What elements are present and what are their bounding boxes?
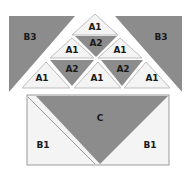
label-r2-a1-left: A1 bbox=[65, 45, 78, 55]
label-left-b3: B3 bbox=[23, 32, 36, 42]
label-left-b1: B1 bbox=[36, 140, 49, 150]
bottom-block: C B1 B1 bbox=[27, 95, 169, 165]
label-r3-a1-1: A1 bbox=[35, 73, 48, 83]
label-r3-a2-1: A2 bbox=[65, 64, 78, 74]
label-r3-a1-3: A1 bbox=[145, 73, 158, 83]
label-r2-a1-right: A1 bbox=[113, 45, 126, 55]
label-r3-a1-2: A1 bbox=[90, 73, 103, 83]
label-c: C bbox=[97, 113, 104, 123]
label-r3-a2-2: A2 bbox=[116, 64, 129, 74]
label-right-b3: B3 bbox=[154, 32, 167, 42]
label-r1-a1: A1 bbox=[88, 22, 101, 32]
label-r2-a2: A2 bbox=[89, 38, 102, 48]
label-right-b1: B1 bbox=[143, 140, 156, 150]
quilt-diagram: B3 B3 A1 A1 A2 A1 A1 A2 A1 A2 A1 C B1 B1 bbox=[0, 0, 189, 174]
top-block: B3 B3 A1 A1 A2 A1 A1 A2 A1 A2 A1 bbox=[9, 11, 182, 92]
